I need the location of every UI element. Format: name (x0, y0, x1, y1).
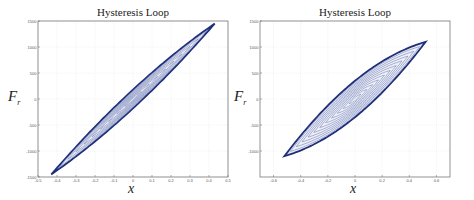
svg-text:1000: 1000 (250, 45, 260, 50)
svg-text:-0.2: -0.2 (92, 178, 100, 183)
svg-text:0: 0 (256, 97, 259, 102)
svg-text:0.2: 0.2 (379, 178, 385, 183)
svg-text:0: 0 (34, 97, 37, 102)
svg-text:0.6: 0.6 (434, 178, 440, 183)
svg-text:0.3: 0.3 (187, 178, 193, 183)
svg-text:-0.4: -0.4 (297, 178, 305, 183)
svg-text:1000: 1000 (28, 45, 38, 50)
right-chart-panel: Hysteresis Loop Fr x -0.6-0.4-0.200.20.4… (237, 0, 474, 200)
svg-text:1500: 1500 (28, 19, 38, 24)
svg-text:0.4: 0.4 (206, 178, 212, 183)
svg-text:0.1: 0.1 (149, 178, 155, 183)
svg-text:-0.4: -0.4 (54, 178, 62, 183)
svg-text:-0.2: -0.2 (324, 178, 332, 183)
svg-text:-0.6: -0.6 (270, 178, 278, 183)
right-chart-plot: -0.6-0.4-0.200.20.40.6-1000-500050010001… (237, 0, 474, 200)
svg-text:-0.1: -0.1 (111, 178, 119, 183)
svg-text:500: 500 (30, 71, 37, 76)
svg-text:0: 0 (132, 178, 135, 183)
svg-text:500: 500 (252, 71, 259, 76)
svg-text:0: 0 (354, 178, 357, 183)
svg-text:-1000: -1000 (248, 149, 259, 154)
svg-text:1500: 1500 (250, 19, 260, 24)
left-chart-panel: Hysteresis Loop Fr x -0.5-0.4-0.3-0.2-0.… (0, 0, 237, 200)
svg-text:0.5: 0.5 (225, 178, 231, 183)
left-chart-plot: -0.5-0.4-0.3-0.2-0.100.10.20.30.40.5-150… (0, 0, 237, 200)
svg-text:-500: -500 (250, 123, 259, 128)
svg-text:0.2: 0.2 (168, 178, 174, 183)
svg-text:-1500: -1500 (26, 175, 37, 180)
svg-text:-1000: -1000 (26, 149, 37, 154)
svg-text:-500: -500 (28, 123, 37, 128)
svg-text:-0.3: -0.3 (73, 178, 81, 183)
svg-text:0.4: 0.4 (407, 178, 413, 183)
